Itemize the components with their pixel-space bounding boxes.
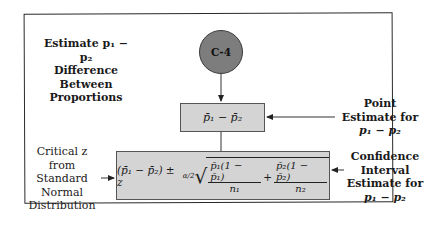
fraction-1: p̄₁(1 − p̄₁) n₁	[208, 160, 261, 194]
title-label: Estimate p₁ − p₂ Difference Between Prop…	[36, 37, 136, 105]
label-line: Normal	[22, 186, 102, 200]
label-line: Estimate for	[330, 111, 430, 125]
node-id: C-4	[211, 46, 231, 58]
sqrt-expression: √ p̄₁(1 − p̄₁) n₁ + p̄₂(1 − p̄₂) n₂	[194, 157, 329, 194]
label-line: Point	[330, 97, 430, 111]
label-line: Interval	[340, 164, 430, 178]
denominator: n₂	[295, 183, 305, 194]
label-line: p₁ − p₂	[330, 124, 430, 138]
label-line: Confidence	[340, 150, 430, 164]
label-line: Distribution	[22, 199, 102, 213]
label-line: Critical z	[22, 145, 102, 159]
node-c4-circle: C-4	[199, 30, 243, 74]
title-line-2: Difference Between	[36, 64, 136, 91]
point-estimate-label: Point Estimate for p₁ − p₂	[330, 97, 430, 138]
title-line-3: Proportions	[36, 91, 136, 105]
point-estimate-box: p̄₁ − p̄₂	[180, 103, 265, 132]
formula-lead: (p̄₁ − p̄₂) ± z	[117, 164, 183, 188]
critical-z-label: Critical z from Standard Normal Distribu…	[22, 145, 102, 213]
fraction-2: p̄₂(1 − p̄₂) n₂	[274, 160, 327, 194]
point-estimate-expression: p̄₁ − p̄₂	[203, 111, 242, 124]
denominator: n₁	[229, 183, 239, 194]
title-line-1: Estimate p₁ − p₂	[36, 37, 136, 64]
confidence-interval-box: (p̄₁ − p̄₂) ± zα/2 √ p̄₁(1 − p̄₁) n₁ + p…	[116, 151, 330, 200]
confidence-interval-label: Confidence Interval Estimate for p₁ − p₂	[340, 150, 430, 204]
numerator: p̄₂(1 − p̄₂)	[274, 160, 327, 183]
label-line: from Standard	[22, 159, 102, 186]
numerator: p̄₁(1 − p̄₁)	[208, 160, 261, 183]
label-line: p₁ − p₂	[340, 191, 430, 205]
z-subscript: α/2	[183, 172, 195, 180]
label-line: Estimate for	[340, 177, 430, 191]
plus-sign: +	[263, 171, 272, 183]
